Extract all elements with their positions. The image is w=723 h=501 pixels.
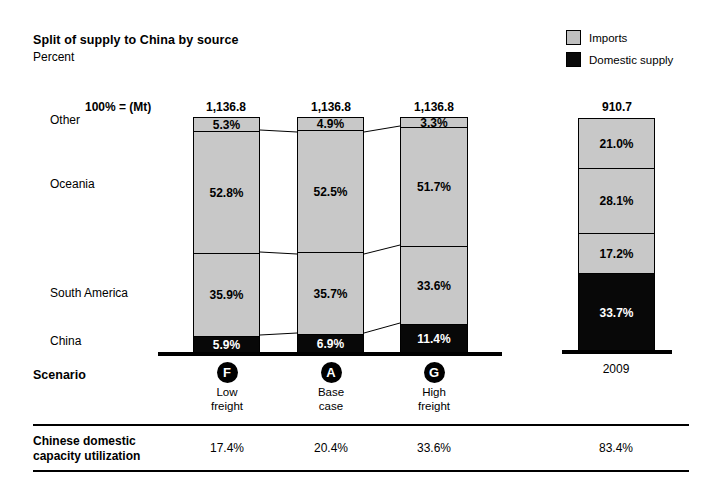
axis-unit-label: 100% = (Mt) bbox=[85, 100, 151, 114]
scenario-row-label: Scenario bbox=[33, 368, 86, 382]
axis-baseline-2009 bbox=[562, 350, 672, 354]
year-label-2009: 2009 bbox=[566, 362, 666, 376]
category-label-south-america: South America bbox=[50, 286, 128, 300]
bar-total-2: 1,136.8 bbox=[394, 100, 474, 114]
category-label-other: Other bbox=[50, 113, 80, 127]
bar-segment-other: 4.9% bbox=[298, 118, 363, 130]
footer-value-low-freight: 17.4% bbox=[182, 441, 272, 455]
scenario-badge-a: A bbox=[321, 362, 342, 383]
footer-rule-top bbox=[33, 424, 689, 426]
axis-baseline-scenarios bbox=[158, 352, 502, 356]
bar-segment-oceania: 51.7% bbox=[401, 127, 467, 246]
scenario-sub-line1: High bbox=[389, 386, 479, 400]
bar-segment-china: 5.9% bbox=[194, 336, 259, 353]
scenario-badge-g: G bbox=[424, 362, 445, 383]
bar-segment-china: 6.9% bbox=[298, 334, 363, 353]
square-swatch-icon bbox=[566, 30, 581, 45]
scenario-column-low-freight: F Low freight bbox=[182, 362, 272, 413]
bar-segment-other: 21.0% bbox=[579, 119, 654, 168]
bar-total-0: 1,136.8 bbox=[186, 100, 266, 114]
legend: Imports Domestic supply bbox=[566, 28, 673, 72]
bar-segment-oceania: 52.5% bbox=[298, 130, 363, 252]
footer-label-line1: Chinese domestic bbox=[33, 434, 140, 449]
footer-rule-bottom bbox=[33, 470, 689, 472]
footer-label-line2: capacity utilization bbox=[33, 449, 140, 464]
square-swatch-icon bbox=[566, 52, 581, 67]
scenario-sub-line1: Low bbox=[182, 386, 272, 400]
page-subtitle: Percent bbox=[33, 50, 74, 64]
category-label-oceania: Oceania bbox=[50, 177, 95, 191]
bar-segment-south-america: 35.9% bbox=[194, 253, 259, 336]
bar-segment-other: 3.3% bbox=[401, 118, 467, 127]
scenario-sub-line1: Base bbox=[286, 386, 376, 400]
scenario-column-high-freight: G High freight bbox=[389, 362, 479, 413]
footer-value-high-freight: 33.6% bbox=[389, 441, 479, 455]
stacked-bar-2009: 21.0% 28.1% 17.2% 33.7% bbox=[578, 118, 655, 350]
bar-total-3: 910.7 bbox=[577, 100, 657, 114]
bar-segment-south-america: 35.7% bbox=[298, 252, 363, 334]
stacked-bar-high-freight: 3.3% 51.7% 33.6% 11.4% bbox=[400, 117, 468, 352]
legend-label-domestic-supply: Domestic supply bbox=[589, 54, 673, 66]
footer-value-2009: 83.4% bbox=[571, 441, 661, 455]
bar-segment-south-america: 17.2% bbox=[579, 233, 654, 273]
bar-segment-south-america: 33.6% bbox=[401, 246, 467, 324]
bar-segment-oceania: 28.1% bbox=[579, 168, 654, 233]
footer-value-base-case: 20.4% bbox=[286, 441, 376, 455]
footer-row-label: Chinese domestic capacity utilization bbox=[33, 434, 140, 464]
scenario-sub-line2: freight bbox=[389, 400, 479, 414]
scenario-badge-f: F bbox=[217, 362, 238, 383]
bar-segment-china: 33.7% bbox=[579, 273, 654, 351]
legend-item-imports: Imports bbox=[566, 28, 673, 47]
legend-item-domestic-supply: Domestic supply bbox=[566, 50, 673, 69]
scenario-column-base-case: A Base case bbox=[286, 362, 376, 413]
bar-total-1: 1,136.8 bbox=[291, 100, 371, 114]
bar-segment-oceania: 52.8% bbox=[194, 131, 259, 253]
scenario-sub-line2: freight bbox=[182, 400, 272, 414]
bar-segment-other: 5.3% bbox=[194, 118, 259, 131]
stacked-bar-low-freight: 5.3% 52.8% 35.9% 5.9% bbox=[193, 117, 260, 352]
category-label-china: China bbox=[50, 334, 81, 348]
scenario-sub-line2: case bbox=[286, 400, 376, 414]
chart-page: Split of supply to China by source Perce… bbox=[0, 0, 723, 501]
page-title: Split of supply to China by source bbox=[33, 33, 239, 47]
stacked-bar-base-case: 4.9% 52.5% 35.7% 6.9% bbox=[297, 117, 364, 352]
legend-label-imports: Imports bbox=[589, 32, 627, 44]
bar-segment-china: 11.4% bbox=[401, 324, 467, 353]
